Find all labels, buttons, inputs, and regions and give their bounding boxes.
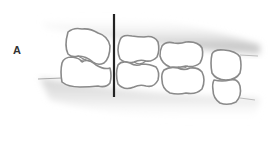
lower-premolar-4 <box>213 80 241 105</box>
lower-gum-edge <box>38 78 62 79</box>
lower-premolar-3 <box>162 67 204 94</box>
dental-diagram <box>0 0 272 143</box>
upper-premolar-3 <box>160 42 203 67</box>
upper-premolar-4 <box>211 50 241 80</box>
lower-molar-2 <box>117 62 159 89</box>
upper-gum-edge <box>240 55 258 56</box>
upper-molar-2 <box>118 36 159 63</box>
